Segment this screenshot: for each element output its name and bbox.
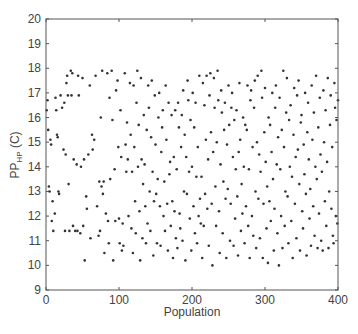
data-point-marker [297, 148, 300, 151]
y-tick-label: 14 [28, 160, 42, 174]
data-point-marker [125, 170, 128, 173]
data-point-marker [55, 109, 58, 112]
data-point-marker [172, 257, 175, 260]
data-point-marker [166, 203, 169, 206]
data-point-marker [190, 249, 193, 252]
data-point-marker [269, 124, 272, 127]
data-point-marker [198, 74, 201, 77]
data-point-marker [115, 89, 118, 92]
data-point-marker [215, 225, 218, 228]
data-point-marker [48, 190, 51, 193]
data-point-marker [67, 94, 70, 97]
data-point-marker [300, 114, 303, 117]
data-point-marker [75, 163, 78, 166]
data-point-marker [94, 74, 97, 77]
data-point-marker [49, 138, 52, 141]
data-point-marker [335, 215, 338, 218]
data-point-marker [277, 136, 280, 139]
data-point-marker [306, 131, 309, 134]
data-point-marker [279, 168, 282, 171]
data-point-marker [232, 244, 235, 247]
data-point-marker [83, 259, 86, 262]
data-point-marker [151, 170, 154, 173]
data-point-marker [121, 249, 124, 252]
data-point-marker [180, 146, 183, 149]
data-point-marker [324, 200, 327, 203]
data-point-marker [323, 141, 326, 144]
data-point-marker [290, 220, 293, 223]
data-point-marker [296, 94, 299, 97]
data-point-marker [283, 146, 286, 149]
data-point-marker [163, 180, 166, 183]
data-point-marker [221, 232, 224, 235]
data-point-marker [316, 178, 319, 181]
data-point-marker [259, 237, 262, 240]
data-point-marker [187, 99, 190, 102]
data-point-marker [204, 193, 207, 196]
data-point-marker [293, 87, 296, 90]
data-point-marker [231, 92, 234, 95]
data-point-marker [173, 156, 176, 159]
y-tick-label: 10 [28, 258, 42, 272]
data-point-marker [91, 134, 94, 137]
data-point-marker [254, 190, 257, 193]
data-point-marker [72, 225, 75, 228]
data-point-marker [326, 161, 329, 164]
data-point-marker [331, 146, 334, 149]
data-point-marker [54, 212, 57, 215]
data-point-marker [116, 79, 119, 82]
data-point-marker [175, 168, 178, 171]
data-point-marker [145, 242, 148, 245]
data-point-marker [305, 193, 308, 196]
data-point-marker [141, 237, 144, 240]
data-point-marker [192, 205, 195, 208]
data-point-marker [183, 134, 186, 137]
data-point-marker [52, 230, 55, 233]
data-point-marker [120, 156, 123, 159]
data-point-marker [134, 200, 137, 203]
data-point-marker [310, 244, 313, 247]
data-point-marker [51, 200, 54, 203]
data-point-marker [102, 193, 105, 196]
data-point-marker [243, 242, 246, 245]
data-point-marker [235, 109, 238, 112]
data-point-marker [289, 166, 292, 169]
data-point-marker [304, 92, 307, 95]
data-point-marker [197, 146, 200, 149]
data-point-marker [70, 69, 73, 72]
data-point-marker [255, 247, 258, 250]
data-point-marker [109, 178, 112, 181]
data-point-marker [200, 175, 203, 178]
data-point-marker [302, 143, 305, 146]
data-point-marker [316, 247, 319, 250]
data-point-marker [79, 232, 82, 235]
data-point-marker [100, 116, 103, 119]
x-tick-label: 300 [255, 293, 275, 307]
data-point-marker [235, 168, 238, 171]
data-point-marker [50, 143, 53, 146]
data-point-marker [281, 247, 284, 250]
data-point-marker [286, 77, 289, 80]
data-point-marker [57, 190, 60, 193]
data-point-marker [314, 166, 317, 169]
data-point-marker [197, 215, 200, 218]
data-point-marker [223, 129, 226, 132]
data-point-marker [86, 207, 89, 210]
data-point-marker [297, 79, 300, 82]
data-point-marker [295, 237, 298, 240]
data-point-marker [154, 143, 157, 146]
data-point-marker [76, 230, 79, 233]
x-tick-label: 0 [43, 293, 50, 307]
data-point-marker [240, 183, 243, 186]
x-axis: 0100200300400 [43, 19, 349, 307]
data-point-marker [122, 244, 125, 247]
data-point-marker [129, 134, 132, 137]
data-point-marker [203, 104, 206, 107]
data-point-marker [113, 168, 116, 171]
data-point-marker [332, 235, 335, 238]
data-point-marker [320, 239, 323, 242]
data-point-marker [63, 102, 66, 105]
data-point-marker [169, 161, 172, 164]
data-point-marker [267, 262, 270, 265]
data-point-marker [186, 79, 189, 82]
